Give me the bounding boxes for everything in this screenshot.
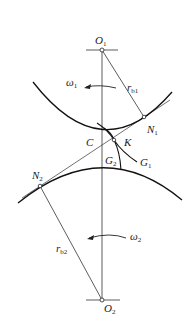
omega2-arrow — [89, 235, 126, 238]
label-o1: O1 — [95, 35, 106, 48]
label-n1: N1 — [147, 124, 158, 137]
label-c: C — [86, 137, 93, 148]
point-n2 — [38, 184, 42, 188]
label-rb2: rb2 — [56, 243, 67, 256]
label-k: K — [124, 137, 131, 148]
label-g2: G2 — [105, 155, 116, 168]
omega1-arrowhead — [84, 84, 91, 89]
point-k — [112, 138, 116, 142]
label-omega2: ω2 — [130, 231, 141, 244]
label-g1: G1 — [140, 157, 151, 170]
label-n2: N2 — [32, 170, 43, 183]
label-omega1: ω1 — [66, 77, 77, 90]
gear-mesh-diagram — [0, 0, 195, 325]
rb2-line — [40, 186, 102, 300]
label-o2: O2 — [104, 303, 115, 316]
point-n1 — [142, 115, 146, 119]
omega2-arrowhead — [87, 235, 94, 240]
label-rb1: rb1 — [127, 82, 138, 95]
point-o1 — [100, 48, 104, 52]
